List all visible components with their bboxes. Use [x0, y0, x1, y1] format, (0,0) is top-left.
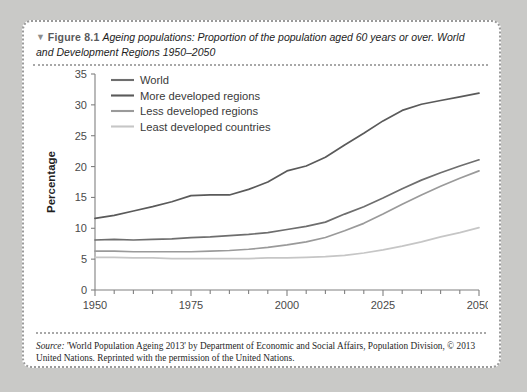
source-note: Source: 'World Population Ageing 2013' b…: [36, 332, 486, 365]
source-label: Source:: [36, 341, 65, 351]
figure-caption-text: Ageing populations: Proportion of the po…: [36, 31, 464, 58]
y-tick-label: 35: [75, 68, 87, 80]
y-tick-label: 15: [75, 191, 87, 203]
legend-label-3: Least developed countries: [140, 121, 271, 133]
figure-caption-line: ▼ Figure 8.1 Ageing populations: Proport…: [36, 30, 484, 59]
legend-label-1: More developed regions: [140, 90, 260, 102]
x-tick-label: 2050: [467, 299, 488, 311]
figure-number: Figure 8.1: [48, 31, 100, 43]
line-chart: 05101520253035Percentage1950197520002025…: [33, 68, 488, 317]
legend-label-0: World: [140, 74, 169, 86]
chart-panel: 05101520253035Percentage1950197520002025…: [33, 68, 488, 317]
x-tick-label: 2000: [275, 299, 299, 311]
y-tick-label: 10: [75, 222, 87, 234]
y-tick-label: 20: [75, 161, 87, 173]
figure-box: ▼ Figure 8.1 Ageing populations: Proport…: [22, 20, 501, 368]
y-tick-label: 0: [81, 284, 87, 296]
x-tick-label: 2025: [371, 299, 395, 311]
y-tick-label: 5: [81, 253, 87, 265]
y-tick-label: 25: [75, 130, 87, 142]
figure-caption: ▼ Figure 8.1 Ageing populations: Proport…: [33, 28, 488, 66]
series-line-3: [95, 228, 479, 259]
y-axis-title: Percentage: [45, 151, 57, 213]
caption-triangle-icon: ▼: [36, 32, 45, 42]
x-tick-label: 1950: [83, 299, 107, 311]
source-text: 'World Population Ageing 2013' by Depart…: [36, 341, 475, 363]
legend-label-2: Less developed regions: [140, 105, 259, 117]
x-tick-label: 1975: [179, 299, 203, 311]
y-tick-label: 30: [75, 99, 87, 111]
